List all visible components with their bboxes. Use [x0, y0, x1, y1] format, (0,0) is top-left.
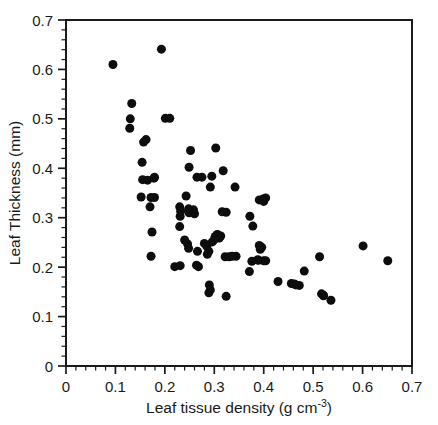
- data-point: [176, 261, 185, 270]
- data-point: [228, 252, 237, 261]
- data-point: [194, 262, 203, 271]
- data-point: [184, 244, 193, 253]
- x-tick-label: 0.6: [352, 378, 373, 395]
- y-tick-label: 0.2: [32, 259, 53, 276]
- data-point: [126, 114, 135, 123]
- data-point: [186, 146, 195, 155]
- x-axis-title: Leaf tissue density (g cm-3): [146, 397, 332, 416]
- data-point: [274, 277, 283, 286]
- y-axis-title-text: Leaf Thickness (mm): [6, 121, 23, 265]
- x-tick-label: 0.7: [402, 378, 423, 395]
- x-axis-title-close: ): [327, 399, 332, 416]
- y-tick-label: 0.5: [32, 110, 53, 127]
- data-point: [248, 222, 257, 231]
- data-point: [150, 193, 159, 202]
- data-point: [210, 235, 219, 244]
- data-point: [206, 183, 215, 192]
- data-point: [147, 252, 156, 261]
- data-point: [192, 173, 201, 182]
- data-point: [150, 173, 159, 182]
- data-point: [138, 158, 147, 167]
- x-tick-label: 0.2: [154, 378, 175, 395]
- data-point: [315, 252, 324, 261]
- x-tick-label: 0: [62, 378, 70, 395]
- data-point: [204, 288, 213, 297]
- data-point: [203, 250, 212, 259]
- data-point: [165, 114, 174, 123]
- scatter-plot-figure: 00.10.20.30.40.50.60.7 00.10.20.30.40.50…: [0, 0, 438, 425]
- x-axis-title-base: Leaf tissue density (g cm: [146, 399, 317, 416]
- data-point: [245, 212, 254, 221]
- data-point: [222, 208, 231, 217]
- data-point: [175, 222, 184, 231]
- data-point: [157, 45, 166, 54]
- data-point: [222, 292, 231, 301]
- data-point: [127, 99, 136, 108]
- data-point: [176, 212, 185, 221]
- data-point: [108, 60, 117, 69]
- data-point: [148, 228, 157, 237]
- y-tick-label: 0.3: [32, 209, 53, 226]
- data-point: [146, 202, 155, 211]
- data-point: [211, 144, 220, 153]
- x-axis-title-text: Leaf tissue density (g cm-3): [146, 397, 332, 416]
- data-point: [193, 247, 202, 256]
- y-axis-title: Leaf Thickness (mm): [6, 121, 23, 265]
- x-tick-label: 0.5: [303, 378, 324, 395]
- data-point: [185, 163, 194, 172]
- data-point: [231, 183, 240, 192]
- x-tick-label: 0.4: [253, 378, 274, 395]
- data-point: [219, 166, 228, 175]
- leaf-thickness-vs-density-chart: 00.10.20.30.40.50.60.7 00.10.20.30.40.50…: [0, 0, 438, 425]
- data-point: [182, 191, 191, 200]
- y-tick-label: 0: [45, 358, 53, 375]
- y-tick-label: 0.6: [32, 61, 53, 78]
- data-point: [319, 291, 328, 300]
- x-tick-label: 0.3: [204, 378, 225, 395]
- data-point: [261, 256, 270, 265]
- y-tick-label: 0.4: [32, 160, 53, 177]
- data-point: [253, 255, 262, 264]
- data-point: [142, 135, 151, 144]
- data-point: [207, 172, 216, 181]
- data-point: [137, 192, 146, 201]
- x-axis-title-superscript: -3: [317, 397, 326, 409]
- y-tick-label: 0.7: [32, 12, 53, 29]
- data-point: [125, 124, 134, 133]
- x-tick-label: 0.1: [105, 378, 126, 395]
- data-point: [300, 267, 309, 276]
- data-point: [190, 209, 199, 218]
- data-point: [383, 256, 392, 265]
- y-tick-label: 0.1: [32, 308, 53, 325]
- data-point: [257, 243, 266, 252]
- data-point: [359, 241, 368, 250]
- data-point: [180, 235, 189, 244]
- data-point: [291, 280, 300, 289]
- data-point: [259, 197, 268, 206]
- data-point: [245, 267, 254, 276]
